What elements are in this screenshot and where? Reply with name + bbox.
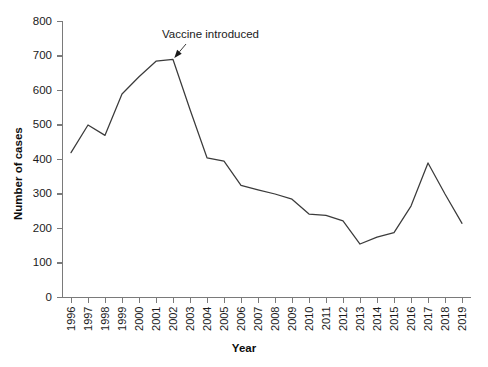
y-tick-label: 400	[33, 153, 52, 165]
x-tick-label: 2019	[456, 307, 468, 331]
annotation-arrow-line	[179, 44, 186, 52]
x-tick-label: 2010	[303, 307, 315, 331]
x-tick-label: 2014	[371, 307, 383, 331]
annotation-label: Vaccine introduced	[162, 28, 259, 40]
x-axis-tick-labels: 1996199719981999200020012002200320042005…	[65, 307, 468, 331]
line-chart-svg: 800 700 600 500 400 300 200 100 0 Number…	[0, 0, 488, 367]
x-axis-title: Year	[232, 342, 257, 354]
x-tick-label: 1998	[99, 307, 111, 331]
x-tick-label: 2017	[422, 307, 434, 331]
y-axis-title: Number of cases	[12, 127, 24, 220]
x-tick-label: 1999	[116, 307, 128, 331]
x-tick-label: 2000	[133, 307, 145, 331]
y-tick-label: 700	[33, 49, 52, 61]
y-tick-label: 600	[33, 84, 52, 96]
x-tick-label: 1996	[65, 307, 77, 331]
chart-figure: 800 700 600 500 400 300 200 100 0 Number…	[0, 0, 488, 367]
x-tick-label: 2005	[218, 307, 230, 331]
x-tick-label: 2011	[320, 307, 332, 331]
x-tick-label: 2007	[252, 307, 264, 331]
y-tick-label: 100	[33, 256, 52, 268]
x-tick-label: 2018	[439, 307, 451, 331]
x-tick-label: 2003	[184, 307, 196, 331]
x-tick-label: 2015	[388, 307, 400, 331]
x-tick-label: 2016	[405, 307, 417, 331]
y-tick-label: 500	[33, 118, 52, 130]
y-axis-ticks	[57, 22, 63, 298]
x-tick-label: 2002	[167, 307, 179, 331]
x-tick-label: 2001	[150, 307, 162, 331]
series-line-number-of-cases	[71, 59, 462, 244]
x-tick-label: 2006	[235, 307, 247, 331]
y-axis-tick-labels: 800 700 600 500 400 300 200 100 0	[33, 15, 52, 303]
y-tick-label: 0	[46, 291, 52, 303]
y-tick-label: 300	[33, 187, 52, 199]
x-tick-label: 2008	[269, 307, 281, 331]
y-tick-label: 200	[33, 222, 52, 234]
x-tick-label: 2013	[354, 307, 366, 331]
x-tick-label: 2004	[201, 307, 213, 331]
annotation-vaccine-introduced: Vaccine introduced	[162, 28, 259, 58]
x-tick-label: 1997	[82, 307, 94, 331]
x-tick-label: 2012	[337, 307, 349, 331]
x-axis-ticks	[72, 298, 463, 303]
x-tick-label: 2009	[286, 307, 298, 331]
y-tick-label: 800	[33, 15, 52, 27]
